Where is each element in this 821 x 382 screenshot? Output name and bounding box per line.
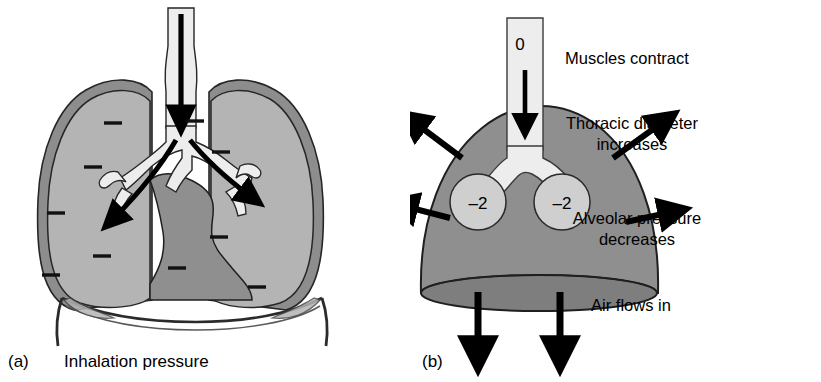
annotation-line: Alveolar pressure — [573, 208, 701, 229]
annotation-thoracic-diameter: Thoracic diameter increases — [566, 113, 698, 155]
alveolar-pressure-left-value: –2 — [469, 194, 488, 213]
annotation-muscles-contract: Muscles contract — [565, 48, 689, 69]
diaphragm-left-attachment — [57, 298, 62, 346]
trachea-pressure-value: 0 — [515, 35, 524, 54]
panel-a-caption: Inhalation pressure — [64, 352, 209, 372]
panel-a-thorax-diagram: (a) Inhalation pressure — [0, 0, 410, 382]
panel-a-svg — [0, 0, 410, 382]
alveolar-pressure-right-value: –2 — [553, 194, 572, 213]
expansion-arrow-upper-left — [414, 122, 462, 158]
annotation-air-flows-in: Air flows in — [591, 295, 671, 316]
annotation-alveolar-pressure: Alveolar pressure decreases — [573, 208, 701, 250]
panel-b-letter: (b) — [422, 352, 443, 372]
diaphragm-right-attachment — [322, 298, 327, 346]
annotation-line: Air flows in — [591, 295, 671, 316]
annotation-line: increases — [566, 134, 698, 155]
panel-a-letter: (a) — [8, 352, 29, 372]
annotation-line: Muscles contract — [565, 48, 689, 69]
annotation-line: decreases — [573, 229, 701, 250]
annotation-line: Thoracic diameter — [566, 113, 698, 134]
inhalation-pressure-figure: (a) Inhalation pressure — [0, 0, 821, 382]
